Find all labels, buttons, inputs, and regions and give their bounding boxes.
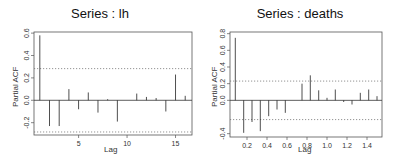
y-tick-label: 0.2: [23, 73, 30, 83]
plot-frame: [230, 32, 382, 137]
x-tick-label: 1.4: [362, 142, 372, 149]
x-tick-label: 15: [172, 140, 180, 147]
x-tick-label: 0.6: [282, 142, 292, 149]
x-axis-label: Lag: [104, 145, 117, 154]
y-tick-label: 0.6: [219, 45, 226, 55]
y-tick-label: 0.0: [23, 95, 30, 105]
y-tick-label: -0.2: [23, 117, 30, 129]
plot-area: -0.20.00.20.40.651015: [0, 0, 200, 163]
plot-frame: [34, 32, 192, 135]
y-tick-label: 0.0: [219, 95, 226, 105]
y-tick-label: 0.2: [219, 79, 226, 89]
x-tick-label: 5: [77, 140, 81, 147]
x-axis-label: Lag: [298, 145, 311, 154]
y-tick-label: 0.4: [219, 62, 226, 72]
y-tick-label: 0.4: [23, 51, 30, 61]
y-tick-label: 0.6: [23, 28, 30, 38]
plot-area: -0.40.00.20.40.60.80.20.40.60.81.01.21.4: [200, 0, 400, 163]
y-tick-label: 0.8: [219, 29, 226, 39]
y-tick-label: -0.4: [219, 128, 226, 140]
x-tick-label: 1.2: [342, 142, 352, 149]
pacf-panel-deaths: Series : deaths -0.40.00.20.40.60.80.20.…: [200, 0, 400, 163]
x-tick-label: 10: [123, 140, 131, 147]
pacf-panel-lh: Series : lh -0.20.00.20.40.651015 Lag Pa…: [0, 0, 200, 163]
y-axis-label: Partial ACF: [210, 67, 219, 107]
x-tick-label: 1.0: [322, 142, 332, 149]
y-axis-label: Partial ACF: [11, 67, 20, 107]
x-tick-label: 0.2: [242, 142, 252, 149]
x-tick-label: 0.4: [262, 142, 272, 149]
